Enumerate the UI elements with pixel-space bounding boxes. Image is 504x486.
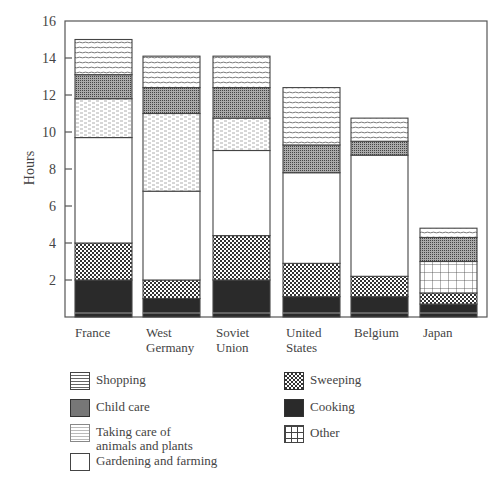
legend-item-taking-care-of[interactable]: Taking care of animals and plants <box>70 424 193 453</box>
bar-segment[interactable] <box>420 228 477 237</box>
bar-segment[interactable] <box>420 293 477 304</box>
bar-segment[interactable] <box>213 88 270 119</box>
white-swatch-icon <box>70 453 90 471</box>
bar-segment[interactable] <box>213 280 270 317</box>
solid-dark-swatch-icon <box>284 399 304 417</box>
y-tick-label: 12 <box>42 88 56 103</box>
bar-france[interactable] <box>75 40 132 318</box>
bar-segment[interactable] <box>143 299 200 318</box>
x-category-label: UnitedStates <box>286 325 322 355</box>
bar-segment[interactable] <box>283 263 340 296</box>
hlines-swatch-icon <box>70 372 90 390</box>
legend-label: Child care <box>96 399 150 414</box>
bar-segment[interactable] <box>283 88 340 145</box>
bar-segment[interactable] <box>75 243 132 280</box>
bar-segment[interactable] <box>143 88 200 114</box>
legend-item-gardening-and-farming[interactable]: Gardening and farming <box>70 453 217 471</box>
legend-label: Other <box>310 425 340 440</box>
bar-segment[interactable] <box>75 138 132 243</box>
bar-segment[interactable] <box>351 155 408 276</box>
dashed-swatch-icon <box>70 424 90 442</box>
checker-swatch-icon <box>284 372 304 390</box>
bar-segment[interactable] <box>351 118 408 141</box>
bar-segment[interactable] <box>213 56 270 87</box>
bar-segment[interactable] <box>143 56 200 87</box>
y-tick-label: 4 <box>49 236 56 251</box>
bar-segment[interactable] <box>351 141 408 155</box>
x-category-label: SovietUnion <box>216 325 250 355</box>
x-category-label: France <box>75 325 111 340</box>
x-category-label: WestGermany <box>146 325 195 355</box>
y-tick-label: 16 <box>42 14 56 29</box>
bar-united-states[interactable] <box>283 88 340 317</box>
x-category-label: Japan <box>423 325 453 340</box>
bar-segment[interactable] <box>283 145 340 173</box>
bar-segment[interactable] <box>351 297 408 317</box>
legend-item-sweeping[interactable]: Sweeping <box>284 372 361 390</box>
bar-segment[interactable] <box>143 114 200 192</box>
legend-label: Sweeping <box>310 372 361 387</box>
bar-segment[interactable] <box>283 173 340 264</box>
y-axis-label: Hours <box>22 148 38 188</box>
bar-belgium[interactable] <box>351 118 408 317</box>
bar-segment[interactable] <box>143 191 200 280</box>
y-tick-label: 14 <box>42 51 56 66</box>
bar-segment[interactable] <box>75 75 132 99</box>
bar-segment[interactable] <box>213 151 270 236</box>
bar-soviet-union[interactable] <box>213 56 270 317</box>
legend-label: Cooking <box>310 399 355 414</box>
bar-segment[interactable] <box>420 237 477 261</box>
bar-segment[interactable] <box>283 297 340 317</box>
legend-label: Gardening and farming <box>96 453 217 468</box>
legend-item-cooking[interactable]: Cooking <box>284 399 355 417</box>
y-tick-label: 10 <box>42 125 56 140</box>
y-tick-label: 2 <box>49 273 56 288</box>
legend-item-shopping[interactable]: Shopping <box>70 372 146 390</box>
dense-dots-swatch-icon <box>70 399 90 417</box>
bar-segment[interactable] <box>143 280 200 299</box>
bar-segment[interactable] <box>75 40 132 75</box>
bar-segment[interactable] <box>213 236 270 280</box>
bar-segment[interactable] <box>75 99 132 138</box>
bar-west-germany[interactable] <box>143 56 200 317</box>
bar-japan[interactable] <box>420 228 477 317</box>
plot-area: 246810121416FranceWestGermanySovietUnion… <box>42 14 487 355</box>
y-tick-label: 6 <box>49 199 56 214</box>
x-category-label: Belgium <box>354 325 399 340</box>
grid-swatch-icon <box>284 425 304 443</box>
bar-segment[interactable] <box>213 118 270 150</box>
bar-segment[interactable] <box>420 304 477 317</box>
legend-label: Taking care of animals and plants <box>96 424 193 453</box>
legend-item-other[interactable]: Other <box>284 425 340 443</box>
bar-segment[interactable] <box>75 280 132 317</box>
legend-label: Shopping <box>96 372 146 387</box>
bar-segment[interactable] <box>351 276 408 296</box>
y-tick-label: 8 <box>49 162 56 177</box>
bar-segment[interactable] <box>420 262 477 293</box>
legend-item-child-care[interactable]: Child care <box>70 399 150 417</box>
